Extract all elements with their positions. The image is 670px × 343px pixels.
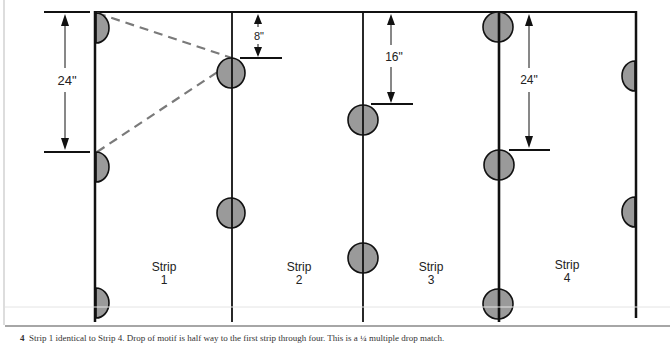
motif-dot bbox=[622, 197, 635, 227]
strip-2-number: 2 bbox=[296, 273, 303, 287]
dimension-label: 24" bbox=[520, 73, 538, 87]
motif-dot bbox=[96, 13, 109, 43]
dimension-label: 8" bbox=[254, 30, 264, 42]
seam-lines bbox=[95, 11, 636, 322]
strip-4-number: 4 bbox=[564, 271, 571, 285]
strip-3-label: Strip bbox=[419, 260, 444, 274]
strip-1-number: 1 bbox=[161, 273, 168, 287]
wallpaper-drop-match-diagram: 24" 8" 16" 24" Strip 1 Strip 2 Strip 3 S… bbox=[0, 0, 670, 343]
motif-dot bbox=[622, 61, 635, 91]
motif-dot bbox=[217, 198, 245, 228]
motif-dot bbox=[96, 288, 109, 318]
dimension-label: 24" bbox=[57, 73, 76, 88]
strip-1-label: Strip bbox=[152, 260, 177, 274]
figure-caption: 4 Strip 1 identical to Strip 4. Drop of … bbox=[20, 333, 670, 343]
motif-dots bbox=[96, 12, 635, 319]
strip-2-label: Strip bbox=[287, 260, 312, 274]
strip-4-label: Strip bbox=[555, 258, 580, 272]
dashed-guide-lines bbox=[97, 13, 232, 152]
strip-3-number: 3 bbox=[428, 273, 435, 287]
caption-text: Strip 1 identical to Strip 4. Drop of mo… bbox=[29, 333, 444, 343]
dimension-label: 16" bbox=[385, 50, 403, 64]
motif-dot bbox=[217, 58, 245, 88]
motif-dot bbox=[96, 152, 109, 182]
caption-marker: 4 bbox=[20, 333, 25, 343]
